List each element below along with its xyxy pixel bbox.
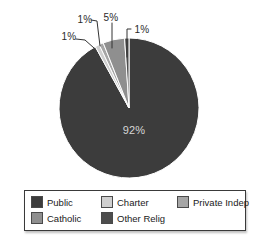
legend-label-charter: Charter	[117, 197, 149, 208]
slice-label-catholic: 5%	[101, 12, 121, 23]
legend-label-public: Public	[47, 197, 73, 208]
legend: Public Charter Private Indep Catholic Ot…	[24, 190, 246, 231]
legend-label-other-relig: Other Relig	[117, 213, 165, 224]
legend-item-catholic: Catholic	[31, 212, 81, 224]
legend-swatch-private-indep	[177, 196, 189, 208]
pie-slices	[59, 38, 199, 178]
slice-label-private-indep: 1%	[75, 14, 95, 25]
slice-label-other-relig: 1%	[132, 24, 152, 35]
legend-item-private-indep: Private Indep	[177, 196, 249, 208]
legend-swatch-public	[31, 196, 43, 208]
slice-label-public: 92%	[118, 125, 150, 136]
legend-item-other-relig: Other Relig	[101, 212, 165, 224]
legend-item-public: Public	[31, 196, 73, 208]
legend-label-catholic: Catholic	[47, 213, 81, 224]
pie-chart-figure: 92% 1% 1% 5% 1% Public Charter Private I…	[0, 0, 267, 240]
legend-item-charter: Charter	[101, 196, 149, 208]
legend-swatch-other-relig	[101, 212, 113, 224]
legend-label-private-indep: Private Indep	[193, 197, 249, 208]
legend-swatch-catholic	[31, 212, 43, 224]
slice-label-charter: 1%	[59, 31, 79, 42]
legend-swatch-charter	[101, 196, 113, 208]
